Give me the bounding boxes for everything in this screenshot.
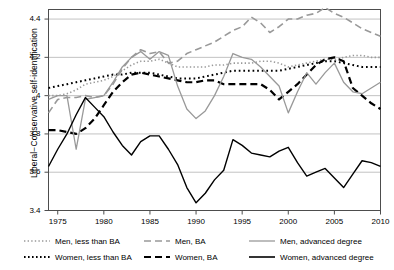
x-tick-label: 2000: [271, 217, 305, 226]
legend-item-women-advanced-degree[interactable]: Women, advanced degree: [249, 253, 376, 262]
series-line-women-less-than-ba: [49, 61, 381, 88]
legend-label: Men, less than BA: [55, 237, 120, 246]
legend-label: Women, BA: [175, 253, 218, 262]
x-tick-label: 1995: [225, 217, 259, 226]
legend-swatch-men-advanced-degree: [249, 237, 275, 245]
legend-swatch-men-ba: [144, 237, 170, 245]
legend-item-women-ba[interactable]: Women, BA: [144, 253, 249, 262]
chart-legend: Men, less than BA Men, BA Men, advanced …: [24, 233, 376, 265]
x-tick-label: 2005: [317, 217, 351, 226]
x-tick-label: 1985: [133, 217, 167, 226]
legend-swatch-women-less-than-ba: [24, 253, 50, 261]
legend-label: Men, advanced degree: [280, 237, 362, 246]
data-series-group: [49, 8, 381, 203]
x-tick-marks: [58, 211, 381, 215]
legend-item-men-less-than-ba[interactable]: Men, less than BA: [24, 237, 144, 246]
y-tick-label: 3.8: [15, 129, 41, 138]
y-tick-label: 4.4: [15, 14, 41, 23]
x-tick-label: 1980: [87, 217, 121, 226]
legend-item-women-less-than-ba[interactable]: Women, less than BA: [24, 253, 144, 262]
legend-swatch-women-ba: [144, 253, 170, 261]
y-tick-label: 3.4: [15, 206, 41, 215]
legend-label: Women, less than BA: [55, 253, 132, 262]
legend-swatch-men-less-than-ba: [24, 237, 50, 245]
legend-label: Women, advanced degree: [280, 253, 374, 262]
y-tick-marks: [45, 19, 49, 210]
legend-item-men-ba[interactable]: Men, BA: [144, 237, 249, 246]
x-tick-label: 1975: [41, 217, 75, 226]
y-tick-label: 4.2: [15, 52, 41, 61]
legend-swatch-women-advanced-degree: [249, 253, 275, 261]
legend-item-men-advanced-degree[interactable]: Men, advanced degree: [249, 237, 376, 246]
legend-label: Men, BA: [175, 237, 206, 246]
x-tick-label: 1990: [179, 217, 213, 226]
series-line-men-advanced-degree: [49, 52, 381, 150]
y-tick-label: 4: [15, 91, 41, 100]
x-tick-label: 2010: [364, 217, 394, 226]
y-tick-label: 3.6: [15, 167, 41, 176]
